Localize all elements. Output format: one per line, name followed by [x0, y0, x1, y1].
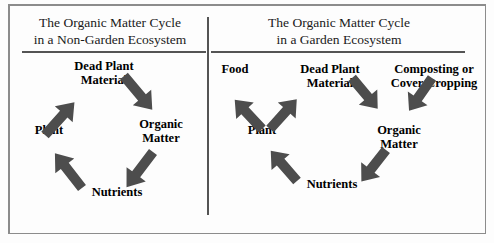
title-rule-left	[22, 51, 206, 53]
node-plant-non-garden: Plant	[24, 124, 74, 138]
node-plant-garden: Plant	[237, 124, 287, 138]
panel-title-non-garden: The Organic Matter Cycle in a Non-Garden…	[14, 14, 206, 48]
title-rule-right	[211, 51, 465, 53]
node-dead-plant-material-non-garden: Dead Plant Material	[58, 60, 150, 87]
node-dead-plant-material-garden: Dead Plant Material	[290, 63, 370, 90]
panel-divider	[207, 17, 209, 215]
node-nutrients-non-garden: Nutrients	[81, 186, 153, 200]
panel-title-garden: The Organic Matter Cycle in a Garden Eco…	[210, 14, 468, 48]
organic-matter-cycle-figure: The Organic Matter Cycle in a Non-Garden…	[0, 0, 494, 243]
node-composting-cover-cropping-garden: Composting or Cover Cropping	[388, 63, 480, 90]
node-nutrients-garden: Nutrients	[296, 178, 368, 192]
node-organic-matter-non-garden: Organic Matter	[127, 118, 195, 145]
node-organic-matter-garden: Organic Matter	[365, 124, 433, 151]
node-food-garden: Food	[213, 63, 257, 77]
